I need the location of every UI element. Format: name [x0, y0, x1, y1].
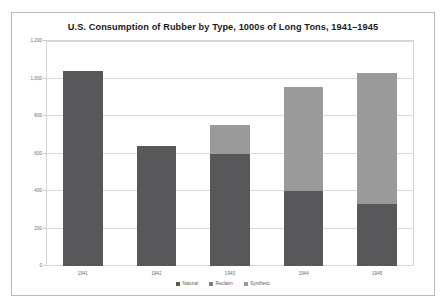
legend-item-reclaim[interactable]: Reclaim — [209, 281, 233, 286]
x-axis-tick-label: 1942 — [151, 271, 161, 276]
y-axis-tick-label: 400 — [34, 188, 42, 193]
chart-legend: NaturalReclaimSynthetic — [12, 281, 434, 286]
legend-label: Natural — [182, 281, 197, 286]
x-axis-tick-label: 1944 — [298, 271, 308, 276]
x-axis-tick-label: 1943 — [225, 271, 235, 276]
y-axis-tick-label: 1,200 — [31, 38, 43, 43]
legend-item-natural[interactable]: Natural — [176, 281, 198, 286]
plot-area: 02004006008001,0001,200 1941194219431944… — [46, 41, 414, 266]
bar-segment-natural[interactable] — [210, 154, 250, 267]
x-axis-tick-label: 1945 — [372, 271, 382, 276]
bar-segment-synthetic[interactable] — [284, 87, 324, 191]
legend-swatch-icon — [176, 282, 180, 286]
legend-label: Reclaim — [215, 281, 232, 286]
bar-segment-natural[interactable] — [137, 146, 177, 266]
bar-group[interactable]: 1942 — [137, 41, 177, 266]
bar-series-group: 19411942194319441945 — [46, 41, 414, 266]
y-axis-tick-label: 800 — [34, 113, 42, 118]
y-axis-tick-label: 1,000 — [31, 75, 43, 80]
bar-segment-natural[interactable] — [284, 191, 324, 266]
y-axis-tick-label: 200 — [34, 225, 42, 230]
bar-group[interactable]: 1945 — [357, 41, 397, 266]
y-axis-tick-label: 600 — [34, 150, 42, 155]
legend-item-synthetic[interactable]: Synthetic — [244, 281, 270, 286]
chart-container: U.S. Consumption of Rubber by Type, 1000… — [11, 12, 435, 296]
legend-swatch-icon — [244, 282, 248, 286]
bar-group[interactable]: 1943 — [210, 41, 250, 266]
y-axis-tick-label: 0 — [39, 263, 42, 268]
chart-title: U.S. Consumption of Rubber by Type, 1000… — [12, 22, 434, 32]
bar-group[interactable]: 1944 — [284, 41, 324, 266]
bar-segment-synthetic[interactable] — [357, 73, 397, 204]
legend-swatch-icon — [209, 282, 213, 286]
bar-segment-natural[interactable] — [63, 71, 103, 266]
bar-segment-natural[interactable] — [357, 204, 397, 266]
bar-group[interactable]: 1941 — [63, 41, 103, 266]
x-axis-tick-label: 1941 — [78, 271, 88, 276]
legend-label: Synthetic — [250, 281, 270, 286]
bar-segment-synthetic[interactable] — [210, 125, 250, 153]
